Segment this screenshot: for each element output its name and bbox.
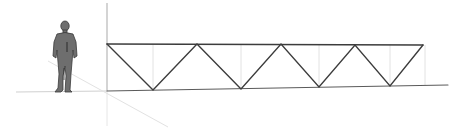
model-drawing [0,0,463,138]
bottom-chord[interactable] [107,85,448,91]
web-diagonals[interactable] [107,44,423,90]
axes [16,3,168,127]
person-figure-icon [53,21,77,92]
vertical-guides [153,44,425,90]
warren-truss[interactable] [107,44,448,91]
top-chord[interactable] [107,44,423,45]
viewport[interactable] [0,0,463,138]
